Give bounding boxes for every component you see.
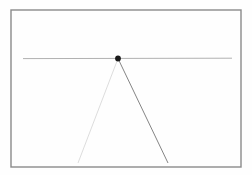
figure-container [0,0,252,175]
ray-diagram-svg [0,0,252,175]
figure-background [0,0,252,175]
points-group [115,56,121,62]
vertex-point [115,56,121,62]
